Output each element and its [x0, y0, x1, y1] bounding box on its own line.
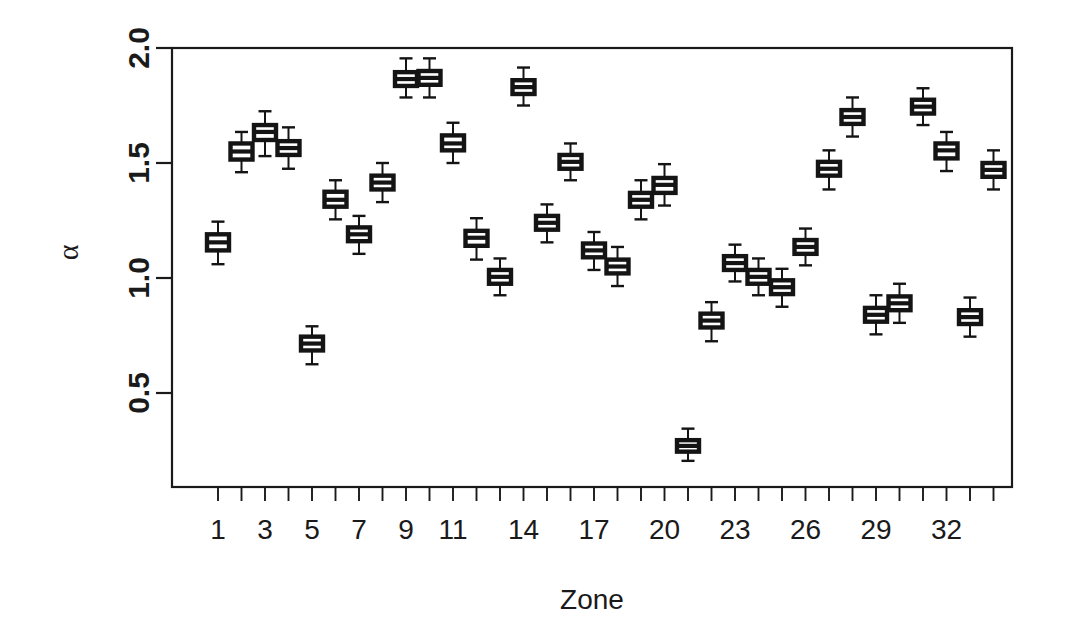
y-axis-title: α [51, 244, 84, 260]
x-tick-label: 26 [790, 514, 821, 545]
boxplot-zone-26 [795, 229, 817, 266]
boxplot-zone-5 [301, 326, 323, 364]
boxplot-zone-11 [442, 123, 464, 163]
boxplot-zone-28 [842, 97, 864, 136]
x-axis-title: Zone [560, 584, 624, 615]
boxplot-zone-2 [231, 132, 253, 172]
boxplot-canvas: 0.51.01.52.0α135791114172023262932Zone [0, 0, 1080, 630]
y-tick-label: 2.0 [122, 27, 155, 69]
x-tick-label: 3 [257, 514, 273, 545]
boxplot-zone-7 [348, 216, 370, 254]
boxplot-zone-20 [654, 164, 676, 205]
boxplot-zone-27 [818, 150, 840, 189]
boxplot-zone-19 [630, 180, 652, 219]
x-tick-label: 11 [438, 514, 467, 545]
plot-frame [172, 48, 1012, 487]
boxplot-zone-9 [395, 58, 417, 97]
boxplot-zone-30 [889, 284, 911, 323]
x-tick-label: 5 [304, 514, 320, 545]
boxplot-zone-22 [701, 302, 723, 341]
x-tick-label: 17 [578, 514, 609, 545]
boxplot-zone-23 [724, 245, 746, 282]
x-tick-label: 14 [508, 514, 539, 545]
x-tick-label: 32 [931, 514, 962, 545]
x-tick-label: 7 [351, 514, 367, 545]
y-tick-label: 1.5 [122, 142, 155, 184]
boxplot-zone-31 [912, 88, 934, 125]
boxplot-zone-18 [607, 247, 629, 286]
x-tick-label: 23 [719, 514, 750, 545]
boxplot-zone-10 [419, 58, 441, 97]
boxplot-zone-1 [207, 222, 229, 265]
boxplot-zone-17 [583, 232, 605, 270]
boxplot-zone-15 [536, 204, 558, 242]
boxplot-zone-3 [254, 111, 276, 156]
boxplot-zone-14 [513, 68, 535, 106]
boxplot-zone-12 [466, 218, 488, 259]
y-tick-label: 0.5 [122, 372, 155, 414]
boxplot-zone-13 [489, 258, 511, 295]
boxplot-zone-34 [983, 150, 1005, 189]
x-tick-label: 20 [649, 514, 680, 545]
boxplot-zone-32 [936, 132, 958, 171]
boxplot-zone-29 [865, 295, 887, 334]
boxplot-zone-8 [372, 163, 394, 202]
boxplot-zone-21 [677, 429, 699, 461]
x-tick-label: 9 [398, 514, 414, 545]
boxplot-figure: 0.51.01.52.0α135791114172023262932Zone [0, 0, 1080, 630]
boxplot-zone-24 [748, 258, 770, 295]
y-tick-label: 1.0 [122, 257, 155, 299]
x-tick-label: 1 [210, 514, 226, 545]
boxplot-zone-6 [325, 180, 347, 219]
boxplot-zone-33 [959, 298, 981, 337]
boxplot-zone-4 [278, 127, 300, 168]
x-tick-label: 29 [860, 514, 891, 545]
boxplot-zone-25 [771, 269, 793, 307]
boxplot-zone-16 [560, 143, 582, 180]
